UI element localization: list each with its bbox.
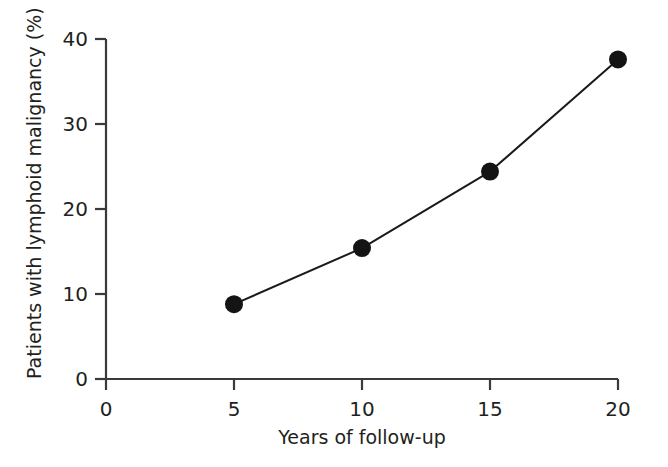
y-tick-label-10: 10 — [63, 282, 88, 306]
y-tick-label-20: 20 — [63, 197, 88, 221]
line-chart: Patients with lymphoid malignancy (%) 40… — [0, 0, 668, 467]
y-tick-label-0: 0 — [75, 367, 88, 391]
chart-figure: Patients with lymphoid malignancy (%) 40… — [0, 0, 668, 467]
data-point — [609, 50, 627, 68]
x-tick-label-15: 15 — [477, 397, 502, 421]
x-axis-title: Years of follow-up — [277, 426, 446, 448]
data-point — [481, 163, 499, 181]
y-tick-label-30: 30 — [63, 112, 88, 136]
series-markers — [225, 50, 627, 313]
y-axis-title: Patients with lymphoid malignancy (%) — [23, 7, 45, 379]
x-tick-label-0: 0 — [100, 397, 113, 421]
data-point — [225, 295, 243, 313]
data-series-group — [225, 50, 627, 313]
data-point — [353, 239, 371, 257]
y-tick-label-40: 40 — [63, 27, 88, 51]
series-line — [234, 59, 618, 304]
x-tick-label-10: 10 — [349, 397, 374, 421]
x-tick-label-5: 5 — [228, 397, 241, 421]
x-tick-label-20: 20 — [605, 397, 630, 421]
